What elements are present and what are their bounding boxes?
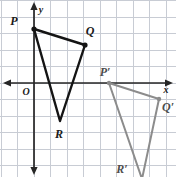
label-p-prime: P′ — [100, 65, 111, 79]
coordinate-plane-figure: P Q R P′ Q′ R′ x y O — [0, 0, 176, 177]
origin-label: O — [22, 86, 29, 97]
vertex-p — [31, 26, 36, 31]
label-r: R — [54, 127, 63, 141]
vertex-p-prime — [107, 81, 111, 85]
vertex-q — [82, 42, 87, 47]
label-q-prime: Q′ — [162, 100, 174, 114]
y-axis-down-arrow — [30, 167, 37, 175]
triangle-pqr — [31, 26, 87, 121]
vertex-q-prime — [157, 97, 161, 101]
label-p: P — [10, 14, 18, 28]
x-axis-left-arrow — [3, 79, 11, 86]
triangle-preimage-outline — [34, 29, 85, 121]
triangle-p-prime-q-prime-r-prime — [107, 81, 161, 177]
geometry-svg: P Q R P′ Q′ R′ x y O — [0, 0, 176, 177]
x-axis-label: x — [163, 84, 169, 95]
label-q: Q — [86, 24, 95, 38]
y-axis-up-arrow — [30, 2, 37, 10]
y-axis-label: y — [38, 4, 44, 15]
label-r-prime: R′ — [115, 162, 127, 176]
